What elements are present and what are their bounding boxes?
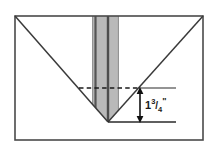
diagram-screenshot: 13/4" xyxy=(0,0,217,145)
dimension-unit-inch-mark: " xyxy=(162,96,166,106)
v-notch-diagram xyxy=(0,0,217,145)
depth-dimension-label: 13/4" xyxy=(145,97,167,113)
dimension-denominator: 4 xyxy=(158,105,162,114)
